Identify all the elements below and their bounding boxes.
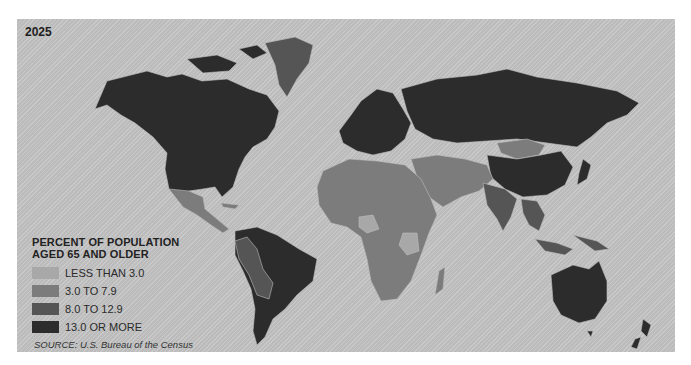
- legend-label: LESS THAN 3.0: [65, 267, 144, 279]
- region-greenland: [265, 37, 313, 97]
- legend-swatch: [32, 267, 59, 279]
- region-southeast-asia: [521, 199, 545, 231]
- legend-title-line2: AGED 65 AND OLDER: [32, 248, 179, 260]
- legend-swatch: [32, 321, 59, 333]
- region-europe: [339, 89, 411, 155]
- region-africa: [317, 159, 437, 301]
- legend-item: 8.0 TO 12.9: [32, 300, 179, 318]
- legend-item: 13.0 OR MORE: [32, 318, 179, 336]
- legend-swatch: [32, 285, 59, 297]
- region-central-america: [169, 189, 229, 233]
- legend-item: 3.0 TO 7.9: [32, 282, 179, 300]
- legend-label: 8.0 TO 12.9: [65, 303, 123, 315]
- legend-item: LESS THAN 3.0: [32, 264, 179, 282]
- legend-label: 13.0 OR MORE: [65, 321, 142, 333]
- source-note: SOURCE: U.S. Bureau of the Census: [34, 339, 193, 350]
- legend-swatch: [32, 303, 59, 315]
- region-north-america: [95, 71, 279, 197]
- region-russia: [401, 69, 639, 147]
- map-year-label: 2025: [25, 25, 52, 39]
- region-new-zealand: [641, 319, 651, 337]
- map-legend: PERCENT OF POPULATION AGED 65 AND OLDER …: [32, 236, 179, 336]
- region-australia: [551, 261, 607, 323]
- legend-label: 3.0 TO 7.9: [65, 285, 117, 297]
- legend-title-line1: PERCENT OF POPULATION: [32, 236, 179, 248]
